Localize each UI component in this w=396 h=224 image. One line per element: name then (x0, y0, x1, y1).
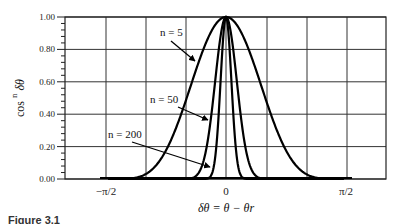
grid (65, 17, 386, 179)
svg-text:cos n δθ: cos n δθ (6, 79, 27, 117)
y-tick-label: 0.80 (39, 44, 55, 54)
annotation-n5: n = 5 (160, 26, 183, 38)
y-tick-label: 0.40 (39, 109, 55, 119)
y-tick-label: 0.60 (39, 77, 55, 87)
x-tick-label: π/2 (339, 185, 353, 197)
y-tick-label: 0.00 (39, 174, 55, 184)
y-axis-label: cos n δθ (6, 79, 27, 117)
x-tick-label: 0 (223, 185, 229, 197)
y-tick-label: 1.00 (39, 12, 55, 22)
cos-power-chart: 0.000.200.400.600.801.00 −π/20π/2 δθ = θ… (0, 0, 396, 224)
figure-caption: Figure 3.1 (8, 214, 60, 224)
x-axis-label: δθ = θ − θr (198, 201, 254, 215)
y-tick-label: 0.20 (39, 142, 55, 152)
x-tick-labels: −π/20π/2 (96, 185, 353, 197)
annotation-n50: n = 50 (150, 93, 179, 105)
annotation-n200: n = 200 (108, 128, 142, 140)
y-tick-labels: 0.000.200.400.600.801.00 (39, 12, 55, 184)
x-tick-label: −π/2 (96, 185, 116, 197)
